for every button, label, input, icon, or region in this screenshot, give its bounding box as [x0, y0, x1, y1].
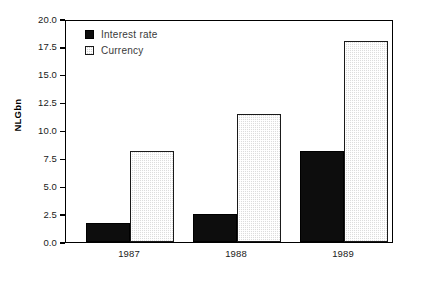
legend-swatch-icon	[85, 46, 94, 55]
x-tick-label-1987: 1987	[118, 248, 140, 259]
x-axis-ticks: 198719881989	[65, 248, 393, 268]
chart-legend: Interest rateCurrency	[85, 28, 158, 57]
bar-1987-interest-rate	[86, 223, 130, 242]
legend-swatch-icon	[85, 30, 94, 39]
legend-item-interest-rate: Interest rate	[85, 28, 158, 41]
bar-1988-interest-rate	[193, 214, 237, 242]
y-tick-label: 0.0	[43, 237, 57, 248]
bar-1988-currency	[237, 114, 281, 242]
x-tick-label-1988: 1988	[225, 248, 247, 259]
y-tick-label: 5.0	[43, 181, 57, 192]
bar-1987-currency	[130, 151, 174, 242]
bar-1989-interest-rate	[300, 151, 344, 242]
legend-label: Currency	[101, 45, 144, 56]
y-tick-label: 10.0	[38, 125, 57, 136]
y-tick-label: 7.5	[43, 153, 57, 164]
x-tick-label-1989: 1989	[332, 248, 354, 259]
bar-chart-figure: NLGbn 0.02.55.07.510.012.515.017.520.0 1…	[0, 0, 439, 285]
legend-item-currency: Currency	[85, 44, 158, 57]
legend-label: Interest rate	[101, 29, 158, 40]
bar-1989-currency	[344, 41, 388, 242]
y-tick-label: 15.0	[38, 69, 57, 80]
y-tick-label: 12.5	[38, 97, 57, 108]
y-axis-ticks: 0.02.55.07.510.012.515.017.520.0	[0, 20, 65, 243]
y-tick-label: 17.5	[38, 41, 57, 52]
y-tick-label: 2.5	[43, 209, 57, 220]
y-tick-label: 20.0	[38, 14, 57, 25]
